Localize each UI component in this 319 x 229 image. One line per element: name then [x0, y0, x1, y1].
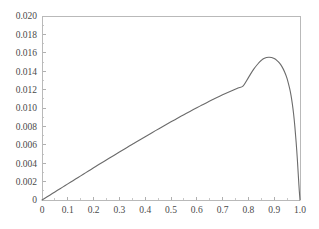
y-tick-label: 0.008 — [16, 122, 38, 132]
y-tick-label: 0.004 — [16, 159, 38, 169]
x-tick-label: 0.5 — [165, 205, 177, 215]
x-tick-label: 0.3 — [113, 205, 125, 215]
y-tick-label: 0.010 — [16, 103, 38, 113]
x-tick-label: 0.7 — [217, 205, 229, 215]
x-tick-label: 0.2 — [88, 205, 100, 215]
y-tick-label: 0.012 — [16, 85, 38, 95]
y-tick-label: 0.018 — [16, 30, 38, 40]
y-tick-label: 0.016 — [16, 48, 38, 58]
chart-figure: 00.0020.0040.0060.0080.0100.0120.0140.01… — [0, 0, 319, 229]
plot-canvas: 00.0020.0040.0060.0080.0100.0120.0140.01… — [0, 0, 319, 229]
y-tick-label: 0 — [32, 195, 37, 205]
y-tick-label: 0.020 — [16, 11, 38, 21]
y-tick-label: 0.006 — [16, 140, 38, 150]
chart-background — [0, 0, 319, 229]
x-tick-label: 0.4 — [139, 205, 151, 215]
y-tick-label: 0.014 — [16, 67, 38, 77]
x-tick-label: 0.1 — [62, 205, 74, 215]
x-tick-label: 0.9 — [268, 205, 280, 215]
x-tick-label: 0 — [40, 205, 45, 215]
x-tick-label: 0.8 — [242, 205, 254, 215]
y-tick-label: 0.002 — [16, 177, 38, 187]
x-tick-label: 1.0 — [294, 205, 306, 215]
x-tick-label: 0.6 — [191, 205, 203, 215]
